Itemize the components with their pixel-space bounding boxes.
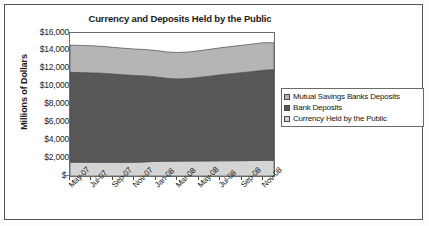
legend-item[interactable]: Mutual Savings Banks Deposits	[284, 91, 420, 102]
chart-frame: Currency and Deposits Held by the Public…	[4, 4, 423, 220]
y-axis-tick-label: $16,000	[25, 28, 69, 37]
y-axis-tick-label: $6,000	[25, 117, 69, 126]
x-axis-ticks: May-07Jul-07Sep-07Nov-07Jan-08Mar-08May-…	[69, 177, 275, 223]
y-axis-tick-label: $10,000	[25, 81, 69, 90]
legend-item[interactable]: Bank Deposits	[284, 102, 420, 113]
y-axis-ticks: $16,000$14,000$12,000$10,000$8,000$6,000…	[21, 5, 69, 221]
y-axis-tick-label: $-	[25, 171, 69, 180]
legend-swatch-icon	[284, 94, 290, 100]
legend-item[interactable]: Currency Held by the Public	[284, 113, 420, 124]
legend-swatch-icon	[284, 105, 290, 111]
y-axis-tick-label: $4,000	[25, 135, 69, 144]
y-axis-tick-label: $12,000	[25, 63, 69, 72]
legend-item-label: Bank Deposits	[293, 103, 342, 112]
y-axis-tick-label: $14,000	[25, 45, 69, 54]
y-axis-tick-label: $8,000	[25, 99, 69, 108]
area-series	[70, 70, 274, 163]
chart-legend: Mutual Savings Banks DepositsBank Deposi…	[281, 88, 424, 127]
legend-item-label: Currency Held by the Public	[293, 114, 387, 123]
y-axis-tick-label: $2,000	[25, 153, 69, 162]
stacked-area-series	[70, 33, 274, 176]
legend-swatch-icon	[284, 116, 290, 122]
chart-title: Currency and Deposits Held by the Public	[65, 13, 295, 24]
plot-area	[69, 32, 275, 177]
legend-item-label: Mutual Savings Banks Deposits	[293, 92, 400, 101]
